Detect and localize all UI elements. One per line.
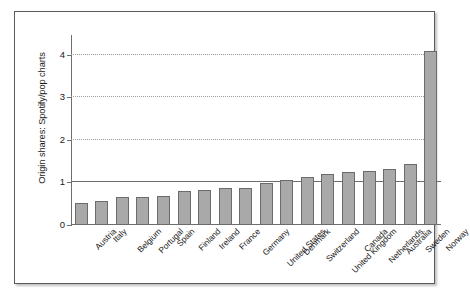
bar <box>363 171 376 225</box>
bar <box>383 169 396 225</box>
bar <box>260 183 273 225</box>
x-tick-label: Germany <box>261 227 291 257</box>
bar <box>219 188 232 225</box>
y-tick-label: 0 <box>60 220 65 230</box>
plot-area: 01234 <box>71 40 441 225</box>
bar <box>424 51 437 225</box>
y-tick-label: 3 <box>60 93 65 103</box>
bar <box>157 196 170 225</box>
bar <box>239 188 252 225</box>
bar <box>321 174 334 225</box>
bar <box>280 180 293 225</box>
x-axis-tick-labels: AustriaItalyBelgiumPortugalSpainFinlandI… <box>71 227 451 296</box>
bar-series <box>71 40 441 225</box>
bar <box>116 197 129 225</box>
bar <box>198 190 211 225</box>
y-tick-label: 2 <box>60 135 65 145</box>
y-tick-label: 1 <box>60 178 65 188</box>
y-axis-title: Origin shares: Spotify/pop charts <box>33 30 51 206</box>
bar <box>75 203 88 225</box>
bar <box>404 164 417 225</box>
x-tick-label: Finland <box>197 227 223 253</box>
y-tick-mark <box>67 225 72 226</box>
bar <box>136 197 149 225</box>
bar <box>301 177 314 225</box>
x-tick-label: France <box>238 227 263 252</box>
bar <box>342 172 355 225</box>
y-tick-label: 4 <box>60 50 65 60</box>
chart-frame: Origin shares: Spotify/pop charts 01234 … <box>14 11 435 284</box>
bar <box>95 201 108 225</box>
bar <box>178 191 191 225</box>
